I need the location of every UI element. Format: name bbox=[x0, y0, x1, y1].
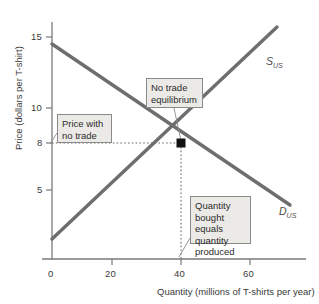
callout-quantity-line3: quantity bbox=[195, 235, 246, 247]
x-axis-title: Quantity (millions of T-shirts per year) bbox=[157, 286, 315, 297]
supply-curve-label-sub: US bbox=[273, 62, 283, 69]
price-callout-leader bbox=[50, 133, 57, 144]
callout-price-with-no-trade: Price with no trade bbox=[57, 114, 112, 143]
x-tick-label-60: 60 bbox=[243, 268, 254, 279]
callout-quantity-line4: produced bbox=[195, 246, 246, 258]
demand-curve-label-sub: US bbox=[287, 212, 297, 219]
callout-quantity-bought-equals-produced: Quantity bought equals quantity produced bbox=[190, 196, 251, 244]
x-tick-label-20: 20 bbox=[105, 268, 116, 279]
callout-equilibrium-line2: equilibrium bbox=[151, 94, 198, 106]
callout-quantity-line1: Quantity bbox=[195, 200, 246, 212]
supply-curve-label: SUS bbox=[266, 55, 283, 69]
callout-quantity-line2: bought equals bbox=[195, 212, 246, 235]
demand-curve-label-main: D bbox=[279, 205, 287, 217]
supply-demand-chart: 15 10 8 5 0 20 40 60 Price (dollars per … bbox=[0, 0, 319, 304]
chart-canvas bbox=[0, 0, 319, 304]
supply-curve-label-main: S bbox=[266, 55, 273, 67]
y-tick-label-5: 5 bbox=[37, 184, 42, 195]
callout-equilibrium-line1: No trade bbox=[151, 82, 198, 94]
y-axis-title: Price (dollars per T-shirt) bbox=[13, 46, 24, 150]
x-tick-label-0: 0 bbox=[48, 268, 53, 279]
quantity-callout-leader bbox=[179, 238, 190, 257]
y-tick-label-10: 10 bbox=[31, 102, 42, 113]
equilibrium-marker bbox=[177, 139, 186, 148]
x-tick-label-40: 40 bbox=[174, 268, 185, 279]
demand-curve-label: DUS bbox=[279, 205, 296, 219]
callout-price-line1: Price with bbox=[62, 118, 107, 130]
y-tick-label-8: 8 bbox=[37, 137, 42, 148]
y-tick-label-15: 15 bbox=[31, 31, 42, 42]
callout-no-trade-equilibrium: No trade equilibrium bbox=[146, 78, 203, 108]
callout-price-line2: no trade bbox=[62, 130, 107, 142]
